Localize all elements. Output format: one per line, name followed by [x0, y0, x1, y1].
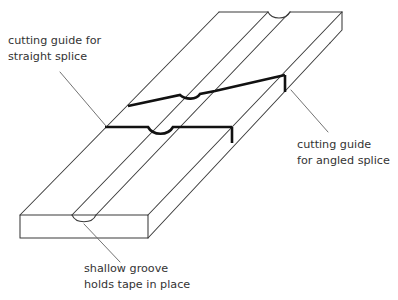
diagram-canvas: cutting guide for straight splice cuttin…: [0, 0, 398, 300]
label-groove-line2: holds tape in place: [84, 278, 190, 291]
leader-straight-splice: [60, 72, 106, 126]
label-cutting-guide-angled-splice: cutting guide for angled splice: [297, 138, 390, 167]
label-shallow-groove: shallow groove holds tape in place: [84, 262, 190, 291]
label-angled-line1: cutting guide: [297, 138, 371, 151]
label-straight-line2: straight splice: [8, 50, 87, 63]
label-angled-line2: for angled splice: [297, 154, 390, 167]
front-face: [20, 215, 148, 238]
label-cutting-guide-straight-splice: cutting guide for straight splice: [8, 34, 105, 63]
leader-angled-splice: [291, 90, 328, 132]
label-straight-line1: cutting guide for: [8, 34, 101, 47]
label-groove-line1: shallow groove: [84, 262, 168, 275]
splice-block-diagram: cutting guide for straight splice cuttin…: [0, 0, 398, 300]
